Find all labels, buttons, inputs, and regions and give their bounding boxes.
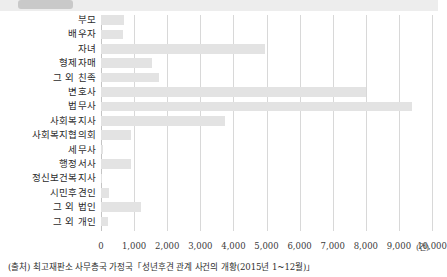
bar	[101, 102, 412, 112]
x-tick-label: 1,000	[122, 241, 146, 251]
bar-category-label: 그 외 개인	[0, 215, 96, 229]
x-tick-label: 4,000	[221, 241, 245, 251]
bar-category-label: 그 외 친족	[0, 71, 96, 85]
bar-row: 배우자	[0, 27, 438, 41]
bar-category-label: 사회복지사	[0, 114, 96, 128]
bar-row: 그 외 개인	[0, 215, 438, 229]
x-tick-label: 8,000	[354, 241, 378, 251]
bar-row: 법무사	[0, 99, 438, 113]
bar-row: 그 외 법인	[0, 200, 438, 214]
bar	[101, 87, 366, 97]
bar-row: 변호사	[0, 85, 438, 99]
x-tick-label: 2,000	[155, 241, 179, 251]
bar	[101, 116, 225, 126]
bar	[101, 15, 124, 25]
bar	[101, 159, 131, 169]
bar-row: 형제자매	[0, 56, 438, 70]
x-tick-label: 5,000	[254, 241, 278, 251]
banner-tag	[18, 0, 73, 9]
bar-row: 부모	[0, 13, 438, 27]
bar-row: 사회복지사	[0, 114, 438, 128]
x-axis-ticks: (건) 01,0002,0003,0004,0005,0006,0007,000…	[0, 241, 438, 255]
bar	[101, 145, 103, 155]
bar-category-label: 부모	[0, 13, 96, 27]
bar	[101, 174, 102, 184]
bar	[101, 188, 109, 198]
bar-category-label: 배우자	[0, 27, 96, 41]
bar-row: 사회복지협의회	[0, 128, 438, 142]
x-tick-label: 0	[98, 241, 103, 251]
x-tick-label: 3,000	[188, 241, 212, 251]
bar	[101, 44, 265, 54]
bar-category-label: 정신보건복지사	[0, 171, 96, 185]
bar-row: 행정서사	[0, 157, 438, 171]
bar-row: 자녀	[0, 42, 438, 56]
bar-category-label: 세무사	[0, 143, 96, 157]
bar	[101, 73, 159, 83]
bar-chart: 부모배우자자녀형제자매그 외 친족변호사법무사사회복지사사회복지협의회세무사행정…	[0, 13, 438, 241]
x-tick-label: 9,000	[387, 241, 411, 251]
x-tick-label: 10,000	[417, 241, 447, 251]
top-banner-strip	[0, 0, 438, 11]
bar	[101, 58, 152, 68]
bar	[101, 30, 123, 40]
x-tick-label: 7,000	[321, 241, 345, 251]
bar-row: 시민후견인	[0, 186, 438, 200]
x-tick-label: 6,000	[287, 241, 311, 251]
bar-row: 세무사	[0, 143, 438, 157]
bar-category-label: 행정서사	[0, 157, 96, 171]
bar	[101, 202, 141, 212]
bar-category-label: 변호사	[0, 85, 96, 99]
bar-category-label: 자녀	[0, 42, 96, 56]
bar-category-label: 법무사	[0, 99, 96, 113]
bar	[101, 130, 131, 140]
bar-category-label: 형제자매	[0, 56, 96, 70]
bar-row: 정신보건복지사	[0, 171, 438, 185]
bar-category-label: 사회복지협의회	[0, 128, 96, 142]
bar-row: 그 외 친족	[0, 71, 438, 85]
bar-category-label: 시민후견인	[0, 186, 96, 200]
bar-category-label: 그 외 법인	[0, 200, 96, 214]
source-note: (출처) 최고재판소 사무총국 가정국「성년후견 관계 사건의 개황(2015년…	[8, 260, 315, 272]
bar	[101, 217, 108, 227]
